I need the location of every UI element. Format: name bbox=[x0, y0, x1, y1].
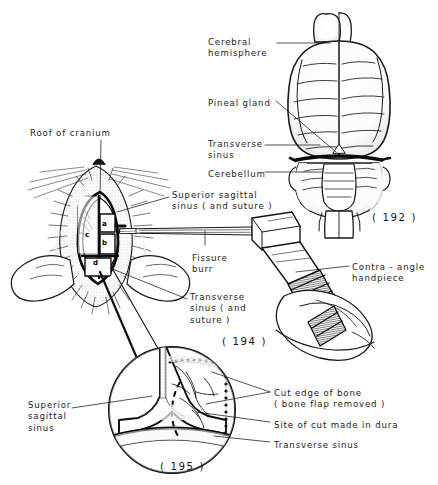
label-roof-of-cranium: Roof of cranium bbox=[30, 128, 111, 139]
label-transverse-sinus-inset: Transverse sinus bbox=[274, 440, 359, 451]
figure-number-192: ( 192 ) bbox=[372, 212, 417, 223]
brain-dorsal-view bbox=[265, 13, 390, 238]
label-cut-edge-of-bone: Cut edge of bone ( bone flap removed ) bbox=[274, 388, 385, 411]
label-contra-angle-handpiece: Contra - angle handpiece bbox=[352, 262, 425, 285]
label-cerebellum: Cerebellum bbox=[208, 169, 266, 180]
marker-d: d bbox=[93, 259, 98, 267]
label-superior-sagittal-sinus-and-suture: Superior sagittal sinus ( and suture ) bbox=[172, 190, 272, 213]
figure-number-194: ( 194 ) bbox=[222, 336, 267, 347]
marker-b: b bbox=[102, 239, 107, 247]
label-transverse-sinus-top: Transverse sinus bbox=[208, 139, 263, 162]
figure-number-195: ( 195 ) bbox=[160, 461, 205, 472]
label-superior-sagittal-sinus-inset: Superior sagittal sinus bbox=[28, 400, 71, 434]
marker-a: a bbox=[102, 220, 107, 228]
label-pineal-gland: Pineal gland bbox=[208, 98, 271, 109]
label-site-of-cut-made-in-dura: Site of cut made in dura bbox=[274, 420, 398, 431]
marker-c: c bbox=[85, 231, 89, 239]
label-fissure-burr: Fissure burr bbox=[192, 253, 228, 276]
label-cerebral-hemisphere: Cerebral hemisphere bbox=[208, 37, 267, 60]
label-transverse-sinus-and-suture: Transverse sinus ( and suture ) bbox=[190, 292, 247, 326]
